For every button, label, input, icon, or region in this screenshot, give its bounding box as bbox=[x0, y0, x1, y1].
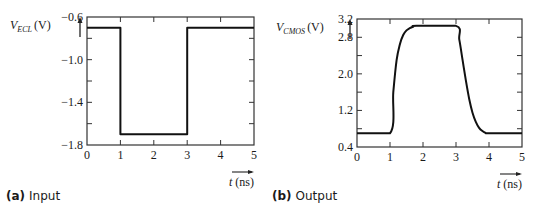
caption-text: Input bbox=[29, 189, 60, 203]
x-axis-label: t (ns) bbox=[497, 177, 522, 191]
input-chart: 012345−1.8−1.4−1.0−0.6VECL(V)t (ns) bbox=[10, 10, 257, 189]
x-tick-label: 0 bbox=[84, 148, 90, 162]
caption-tag: (a) bbox=[6, 189, 25, 203]
x-axis-label: t (ns) bbox=[229, 175, 254, 189]
x-tick-label: 5 bbox=[251, 148, 257, 162]
y-tick-label: 2.0 bbox=[338, 67, 353, 81]
y-tick-label: 0.4 bbox=[338, 140, 353, 154]
x-tick-label: 3 bbox=[184, 148, 190, 162]
caption-text: Output bbox=[296, 189, 338, 203]
x-tick-label: 1 bbox=[117, 148, 123, 162]
x-tick-label: 2 bbox=[151, 148, 157, 162]
series-line bbox=[87, 28, 254, 135]
y-axis-label: VCMOS(V) bbox=[276, 20, 324, 36]
y-axis-label: VECL(V) bbox=[10, 18, 51, 34]
output-chart: 0123450.41.22.02.83.2VCMOS(V)t (ns) bbox=[276, 12, 525, 191]
y-tick-label: 1.2 bbox=[338, 103, 353, 117]
figure: 012345−1.8−1.4−1.0−0.6VECL(V)t (ns) 0123… bbox=[0, 0, 540, 211]
y-tick-label: −1.8 bbox=[61, 138, 83, 152]
x-tick-label: 4 bbox=[486, 150, 492, 164]
y-tick-label: −1.4 bbox=[61, 95, 83, 109]
plot-frame bbox=[87, 17, 254, 145]
y-tick-label: −1.0 bbox=[61, 53, 83, 67]
series-line bbox=[357, 26, 522, 133]
caption-tag: (b) bbox=[272, 189, 292, 203]
x-tick-label: 4 bbox=[218, 148, 224, 162]
x-tick-label: 3 bbox=[453, 150, 459, 164]
plot-frame bbox=[357, 19, 522, 147]
caption-input: (a)Input bbox=[6, 189, 60, 203]
x-tick-label: 5 bbox=[519, 150, 525, 164]
x-tick-label: 2 bbox=[420, 150, 426, 164]
x-tick-label: 0 bbox=[354, 150, 360, 164]
y-tick-label: 2.8 bbox=[338, 30, 353, 44]
caption-output: (b)Output bbox=[272, 189, 337, 203]
x-tick-label: 1 bbox=[387, 150, 393, 164]
